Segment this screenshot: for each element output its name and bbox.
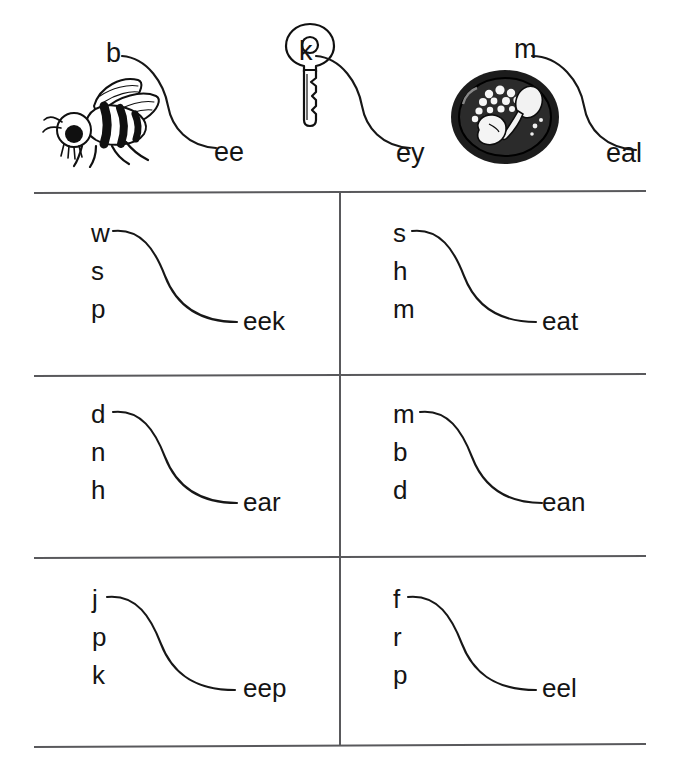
onset-letter: p <box>393 656 407 694</box>
onset-letter: s <box>91 252 110 290</box>
exercise-cell-ear: d n h ear <box>35 376 340 558</box>
example-onset-letter: k <box>299 38 313 65</box>
example-key: k ey <box>250 0 440 192</box>
example-rime-label: ee <box>214 139 244 166</box>
connector-curve <box>105 592 251 706</box>
onset-letter: h <box>91 471 105 509</box>
connector-curve <box>111 407 251 519</box>
example-onset-letter: b <box>106 40 121 67</box>
rime-label: eep <box>243 675 286 701</box>
onset-letter: b <box>393 433 415 471</box>
exercise-cell-eel: f r p eel <box>340 558 645 745</box>
connector-curve <box>410 226 550 338</box>
onset-letter: d <box>91 395 105 433</box>
connector-curve <box>111 226 251 338</box>
onset-letter: m <box>393 290 415 328</box>
connector-curve <box>418 407 558 519</box>
example-bee: b ee <box>0 0 250 192</box>
onset-letter: s <box>393 214 415 252</box>
onset-stack: s h m <box>393 214 415 328</box>
meal-plate-illustration <box>449 68 561 166</box>
onset-letter: h <box>393 252 415 290</box>
exercise-cell-eep: j p k eep <box>35 558 340 745</box>
onset-stack: d n h <box>91 395 105 509</box>
rime-label: eat <box>542 308 578 334</box>
onset-letter: r <box>393 618 407 656</box>
connector-curve <box>406 592 552 706</box>
example-rime-label: ey <box>396 140 425 167</box>
rime-label: ean <box>542 489 585 515</box>
example-onset-letter: m <box>514 36 537 63</box>
rime-label: eel <box>542 675 577 701</box>
rime-label: ear <box>243 489 281 515</box>
onset-letter: k <box>92 656 106 694</box>
onset-stack: j p k <box>92 580 106 694</box>
onset-stack: m b d <box>393 395 415 509</box>
onset-letter: w <box>91 214 110 252</box>
onset-letter: p <box>91 290 110 328</box>
example-rime-label: eal <box>606 140 642 167</box>
exercise-cell-eek: w s p eek <box>35 193 340 376</box>
rime-label: eek <box>243 308 285 334</box>
onset-letter: f <box>393 580 407 618</box>
onset-letter: n <box>91 433 105 471</box>
onset-letter: p <box>92 618 106 656</box>
worksheet-page: b ee k ey <box>0 0 676 783</box>
example-meal: m eal <box>440 0 676 192</box>
onset-stack: f r p <box>393 580 407 694</box>
onset-stack: w s p <box>91 214 110 328</box>
exercise-cell-ean: m b d ean <box>340 376 645 558</box>
exercise-cell-eat: s h m eat <box>340 193 645 376</box>
onset-letter: d <box>393 471 415 509</box>
onset-letter: j <box>92 580 106 618</box>
bee-illustration <box>34 66 166 168</box>
onset-letter: m <box>393 395 415 433</box>
